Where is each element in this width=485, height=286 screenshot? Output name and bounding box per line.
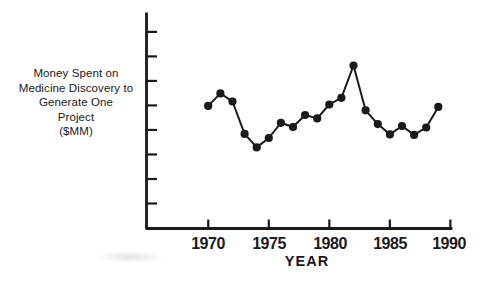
chart-figure: Money Spent on Medicine Discovery to Gen… <box>0 0 485 286</box>
x-tick-labels: 1970 1975 1980 1985 1990 <box>191 235 466 252</box>
data-point-1971 <box>216 89 224 97</box>
data-point-1985 <box>386 130 394 138</box>
x-axis-title: YEAR <box>285 253 329 269</box>
data-point-1977 <box>289 123 297 131</box>
x-tick-label-1985: 1985 <box>373 235 407 252</box>
data-point-1976 <box>277 119 285 127</box>
data-point-1974 <box>253 143 261 151</box>
data-series <box>204 61 442 151</box>
data-point-1981 <box>337 94 345 102</box>
plot-area: 1970 1975 1980 1985 1990 YEAR <box>0 0 485 286</box>
data-point-1984 <box>374 120 382 128</box>
data-point-1988 <box>422 123 430 131</box>
data-point-1970 <box>204 102 212 110</box>
x-tick-label-1990: 1990 <box>432 235 466 252</box>
data-point-1986 <box>398 122 406 130</box>
y-axis-ticks <box>147 32 158 204</box>
x-tick-label-1975: 1975 <box>252 235 286 252</box>
data-point-1982 <box>349 61 357 69</box>
x-tick-label-1980: 1980 <box>313 235 347 252</box>
data-point-1980 <box>325 100 333 108</box>
data-point-1972 <box>228 97 236 105</box>
data-point-1989 <box>434 103 442 111</box>
x-tick-label-1970: 1970 <box>191 235 225 252</box>
data-point-1979 <box>313 114 321 122</box>
data-point-1975 <box>265 134 273 142</box>
data-point-1987 <box>410 131 418 139</box>
data-point-1978 <box>301 111 309 119</box>
data-point-1973 <box>241 130 249 138</box>
data-point-1983 <box>362 106 370 114</box>
